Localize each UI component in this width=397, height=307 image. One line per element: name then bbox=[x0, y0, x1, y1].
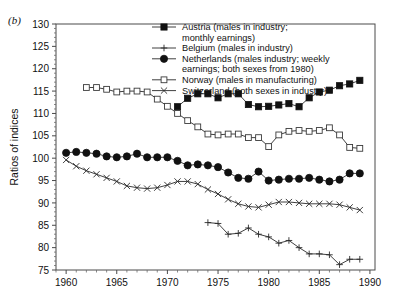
marker-filled-square bbox=[266, 103, 272, 109]
marker-filled-square bbox=[296, 104, 302, 110]
marker-plus bbox=[357, 256, 364, 263]
marker-filled-circle bbox=[306, 174, 313, 181]
marker-filled-circle bbox=[214, 164, 221, 171]
marker-open-square bbox=[225, 131, 231, 137]
marker-open-square bbox=[286, 128, 292, 134]
marker-open-square bbox=[185, 118, 191, 124]
legend-label: Norway (males in manufacturing) bbox=[182, 75, 317, 85]
marker-filled-square bbox=[245, 101, 251, 107]
marker-filled-circle bbox=[73, 148, 80, 155]
marker-plus bbox=[316, 251, 323, 258]
marker-cross bbox=[235, 201, 241, 207]
marker-filled-circle bbox=[265, 177, 272, 184]
marker-plus bbox=[275, 240, 282, 247]
marker-filled-square bbox=[347, 81, 353, 87]
figure-panel: (b) 758085909510010511011512012513019601… bbox=[0, 0, 397, 307]
marker-cross bbox=[266, 202, 272, 208]
marker-plus bbox=[235, 230, 242, 237]
marker-plus bbox=[161, 45, 168, 52]
marker-open-square bbox=[134, 88, 140, 94]
series-1 bbox=[205, 219, 364, 268]
marker-filled-square bbox=[161, 24, 167, 30]
marker-open-square bbox=[144, 89, 150, 95]
marker-open-square bbox=[316, 128, 322, 134]
marker-filled-circle bbox=[113, 154, 120, 161]
series-line bbox=[86, 88, 359, 149]
marker-filled-square bbox=[174, 104, 180, 110]
marker-cross bbox=[73, 163, 79, 169]
marker-open-square bbox=[266, 144, 272, 150]
marker-filled-circle bbox=[164, 154, 171, 161]
marker-filled-circle bbox=[356, 170, 363, 177]
marker-open-square bbox=[195, 124, 201, 130]
marker-open-square bbox=[246, 135, 252, 141]
marker-filled-circle bbox=[235, 174, 242, 181]
marker-open-square bbox=[164, 103, 170, 109]
series-4 bbox=[63, 157, 363, 213]
marker-filled-circle bbox=[93, 150, 100, 157]
series-2 bbox=[63, 148, 364, 185]
marker-plus bbox=[346, 256, 353, 263]
marker-filled-square bbox=[336, 83, 342, 89]
marker-cross bbox=[357, 207, 363, 213]
x-tick-label: 1990 bbox=[359, 277, 382, 288]
y-tick-label: 100 bbox=[32, 153, 49, 164]
marker-filled-circle bbox=[316, 176, 323, 183]
marker-filled-circle bbox=[194, 161, 201, 168]
marker-filled-circle bbox=[83, 149, 90, 156]
marker-cross bbox=[83, 168, 89, 174]
marker-cross bbox=[63, 157, 69, 163]
marker-plus bbox=[205, 219, 212, 226]
marker-filled-circle bbox=[255, 168, 262, 175]
marker-cross bbox=[93, 171, 99, 177]
marker-filled-square bbox=[276, 102, 282, 108]
marker-filled-circle bbox=[245, 175, 252, 182]
legend-label: Netherlands (males industry; weekly bbox=[182, 54, 330, 64]
marker-open-square bbox=[104, 86, 110, 92]
marker-cross bbox=[114, 178, 120, 184]
y-tick-label: 80 bbox=[38, 242, 50, 253]
legend-label: Austria (males in industry; bbox=[182, 22, 288, 32]
marker-cross bbox=[205, 186, 211, 192]
y-tick-label: 75 bbox=[38, 265, 50, 276]
legend-label: monthly earnings) bbox=[182, 33, 255, 43]
x-tick-label: 1975 bbox=[207, 277, 230, 288]
y-tick-label: 95 bbox=[38, 175, 50, 186]
marker-filled-square bbox=[357, 77, 363, 83]
marker-open-square bbox=[347, 145, 353, 151]
marker-open-square bbox=[327, 125, 333, 131]
marker-open-square bbox=[94, 85, 100, 91]
marker-plus bbox=[286, 237, 293, 244]
legend: Austria (males in industry;monthly earni… bbox=[152, 22, 330, 96]
marker-filled-circle bbox=[160, 55, 167, 62]
y-axis-title: Ratios of indices bbox=[8, 108, 20, 185]
marker-filled-circle bbox=[123, 153, 130, 160]
marker-plus bbox=[255, 231, 262, 238]
marker-filled-circle bbox=[204, 162, 211, 169]
y-tick-label: 120 bbox=[32, 63, 49, 74]
series-line bbox=[66, 160, 360, 210]
marker-open-square bbox=[276, 132, 282, 138]
marker-filled-square bbox=[286, 101, 292, 107]
marker-plus bbox=[245, 225, 252, 232]
marker-open-square bbox=[215, 132, 221, 138]
marker-open-square bbox=[161, 77, 167, 83]
marker-filled-circle bbox=[346, 170, 353, 177]
y-tick-label: 85 bbox=[38, 220, 50, 231]
marker-cross bbox=[347, 204, 353, 210]
panel-label: (b) bbox=[8, 14, 21, 26]
marker-filled-circle bbox=[133, 150, 140, 157]
marker-filled-circle bbox=[295, 175, 302, 182]
marker-cross bbox=[215, 191, 221, 197]
marker-filled-circle bbox=[326, 178, 333, 185]
marker-cross bbox=[225, 196, 231, 202]
marker-filled-circle bbox=[336, 176, 343, 183]
marker-open-square bbox=[256, 135, 262, 141]
y-tick-label: 105 bbox=[32, 130, 49, 141]
marker-open-square bbox=[124, 88, 130, 94]
marker-open-square bbox=[235, 131, 241, 137]
marker-plus bbox=[306, 251, 313, 258]
marker-open-square bbox=[114, 89, 120, 95]
x-tick-label: 1985 bbox=[308, 277, 331, 288]
marker-cross bbox=[164, 182, 170, 188]
